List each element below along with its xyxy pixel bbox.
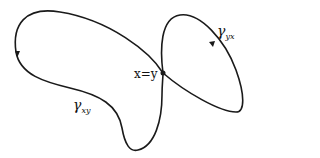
gamma-subscript: xy xyxy=(81,106,90,115)
arrow-icon-right xyxy=(209,41,215,47)
gamma-subscript: yx xyxy=(225,32,234,41)
intersection-point xyxy=(161,71,166,76)
label-gamma-yx: γyx xyxy=(217,24,234,38)
point-label: x=y xyxy=(134,68,158,80)
label-gamma-xy: γxy xyxy=(73,98,90,112)
